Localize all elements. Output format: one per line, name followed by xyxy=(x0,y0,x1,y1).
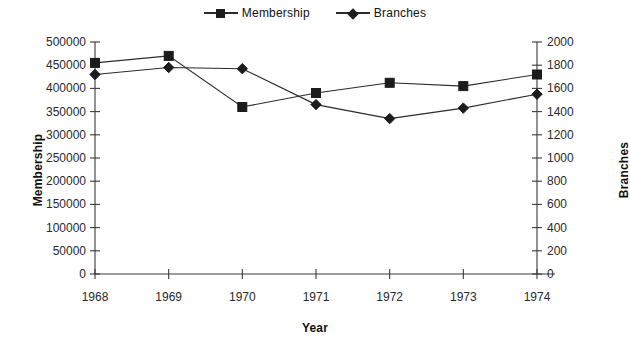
data-point-membership xyxy=(533,70,542,79)
data-point-branches xyxy=(90,69,100,79)
legend-label-branches: Branches xyxy=(374,6,426,20)
y-axis-left-tick-label: 200000 xyxy=(46,174,86,188)
plot-canvas: 0500001000001500002000002500003000003500… xyxy=(0,0,630,339)
data-point-branches xyxy=(458,103,468,113)
data-point-branches xyxy=(237,64,247,74)
y-axis-left-tick-label: 100000 xyxy=(46,221,86,235)
x-axis-tick-label: 1969 xyxy=(155,290,182,304)
y-axis-left-tick-label: 450000 xyxy=(46,58,86,72)
y-axis-left-tick-label: 300000 xyxy=(46,128,86,142)
dual-axis-line-chart: Membership Branches 05000010000015000020… xyxy=(0,0,630,339)
data-point-branches xyxy=(532,89,542,99)
data-point-membership xyxy=(312,89,321,98)
y-axis-right-tick-label: 1800 xyxy=(547,58,574,72)
y-axis-left-tick-label: 50000 xyxy=(53,244,87,258)
data-point-branches xyxy=(385,113,395,123)
legend-label-membership: Membership xyxy=(242,6,310,20)
x-axis-tick-label: 1971 xyxy=(303,290,330,304)
legend-marker-diamond-icon xyxy=(336,7,370,19)
data-point-branches xyxy=(311,99,321,109)
legend-marker-square-icon xyxy=(204,7,238,19)
y-axis-right-tick-label: 800 xyxy=(547,174,567,188)
y-axis-right-tick-label: 600 xyxy=(547,197,567,211)
y-axis-right-tick-label: 2000 xyxy=(547,35,574,49)
y-axis-left-tick-label: 0 xyxy=(79,267,86,281)
y-axis-right-tick-label: 1000 xyxy=(547,151,574,165)
x-axis-tick-label: 1968 xyxy=(82,290,109,304)
y-axis-right-title: Branches xyxy=(617,141,630,197)
chart-legend: Membership Branches xyxy=(0,2,630,24)
x-axis-tick-label: 1974 xyxy=(524,290,551,304)
legend-entry-branches: Branches xyxy=(336,6,426,20)
x-axis-title: Year xyxy=(0,321,630,335)
y-axis-right-tick-label: 1400 xyxy=(547,105,574,119)
y-axis-right-tick-label: 1600 xyxy=(547,81,574,95)
legend-entry-membership: Membership xyxy=(204,6,310,20)
data-point-membership xyxy=(164,51,173,60)
y-axis-right-tick-label: 200 xyxy=(547,244,567,258)
y-axis-left-tick-label: 350000 xyxy=(46,105,86,119)
data-point-membership xyxy=(385,78,394,87)
x-axis-tick-label: 1973 xyxy=(450,290,477,304)
x-axis-tick-label: 1972 xyxy=(376,290,403,304)
y-axis-left-title: Membership xyxy=(31,133,45,206)
y-axis-left-tick-label: 400000 xyxy=(46,81,86,95)
data-point-membership xyxy=(238,103,247,112)
data-point-membership xyxy=(459,82,468,91)
y-axis-left-tick-label: 150000 xyxy=(46,197,86,211)
x-axis-tick-label: 1970 xyxy=(229,290,256,304)
y-axis-right-tick-label: 1200 xyxy=(547,128,574,142)
data-point-branches xyxy=(164,62,174,72)
y-axis-left-tick-label: 250000 xyxy=(46,151,86,165)
y-axis-left-tick-label: 500000 xyxy=(46,35,86,49)
data-point-membership xyxy=(91,58,100,67)
y-axis-right-tick-label: 0 xyxy=(547,267,554,281)
y-axis-right-tick-label: 400 xyxy=(547,221,567,235)
